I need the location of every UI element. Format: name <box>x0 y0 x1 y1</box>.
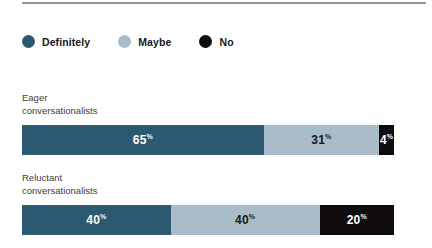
bar-segment-value: 20% <box>347 213 367 227</box>
bar-segment-no: 4% <box>379 125 394 155</box>
legend-label-no: No <box>219 36 233 48</box>
bar-segment-maybe: 31% <box>264 125 379 155</box>
header-divider <box>22 2 426 4</box>
circle-swatch-icon <box>118 35 131 48</box>
chart-legend: Definitely Maybe No <box>22 35 262 48</box>
bar-group-label: Reluctant conversationalists <box>22 172 394 197</box>
bar-segment-value: 31% <box>311 133 331 147</box>
legend-label-maybe: Maybe <box>138 36 171 48</box>
bar-segment-value: 40% <box>86 213 106 227</box>
legend-item-maybe: Maybe <box>118 35 171 48</box>
bar-group-reluctant: Reluctant conversationalists 40% 40% 20% <box>22 172 394 235</box>
bar-segment-value: 40% <box>235 213 255 227</box>
bar-segment-value: 65% <box>133 133 153 147</box>
stacked-bar: 65% 31% 4% <box>22 125 394 155</box>
stacked-bar: 40% 40% 20% <box>22 205 394 235</box>
bar-segment-definitely: 40% <box>22 205 171 235</box>
circle-swatch-icon <box>199 35 212 48</box>
legend-item-definitely: Definitely <box>22 35 90 48</box>
circle-swatch-icon <box>22 35 35 48</box>
legend-label-definitely: Definitely <box>42 36 90 48</box>
bar-segment-definitely: 65% <box>22 125 264 155</box>
bar-group-label: Eager conversationalists <box>22 92 394 117</box>
bar-segment-value: 4% <box>380 133 393 147</box>
bar-group-eager: Eager conversationalists 65% 31% 4% <box>22 92 394 155</box>
legend-item-no: No <box>199 35 233 48</box>
bar-segment-maybe: 40% <box>171 205 320 235</box>
bar-segment-no: 20% <box>320 205 394 235</box>
